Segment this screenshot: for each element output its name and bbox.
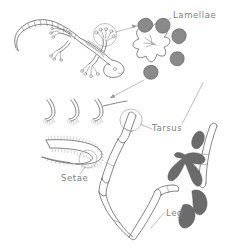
lamella-pad-5 <box>144 65 158 79</box>
label-setae: Setae <box>61 174 88 183</box>
lamella-pad-3 <box>172 29 186 44</box>
figure-illustration <box>0 0 238 252</box>
lamella-pad-1 <box>138 18 153 32</box>
label-lamellae: Lamellae <box>173 11 216 20</box>
lamella-pad-4 <box>170 52 184 66</box>
gecko-adhesion-figure: Lamellae Tarsus Setae Leg <box>0 0 238 252</box>
label-leg: Leg <box>166 209 183 218</box>
label-tarsus: Tarsus <box>152 124 182 133</box>
